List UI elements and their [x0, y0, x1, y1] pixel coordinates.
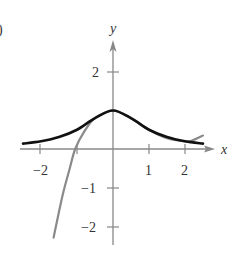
y-tick-label--2: −2: [81, 220, 96, 235]
y-tick-label-2: 2: [92, 65, 99, 80]
x-tick-label-2: 2: [181, 163, 188, 178]
panel-label: ): [0, 22, 3, 38]
x-axis: −2 1 2 x: [20, 142, 228, 178]
x-tick-label--2: −2: [33, 163, 48, 178]
chart-canvas: ) −2 1 2 x 2 −1 −2 y: [0, 0, 239, 253]
y-tick-label--1: −1: [81, 181, 96, 196]
x-tick-label-1: 1: [145, 163, 152, 178]
y-axis-label: y: [108, 21, 117, 36]
y-axis: 2 −1 −2 y: [81, 21, 119, 245]
x-axis-label: x: [220, 142, 228, 157]
